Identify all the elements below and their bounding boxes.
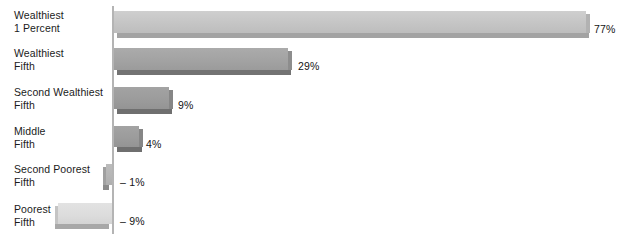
category-label-line1: Wealthiest [14,9,64,21]
bar-face [114,126,139,147]
category-label-line1: Poorest [14,203,51,215]
bar-chart: Wealthiest 1 Percent 77% Wealthiest Fift… [0,0,626,242]
category-label-line1: Wealthiest [14,47,64,59]
bar-end-bevel [586,14,590,33]
bar-end-bevel [169,90,173,109]
value-label-poorest-fifth: – 9% [120,215,145,227]
category-label-line2: Fifth [14,176,110,189]
category-label-line2: Fifth [14,138,110,151]
bar-middle-fifth [114,126,139,147]
bar-end-bevel [288,51,292,70]
category-label-second-poorest-fifth: Second Poorest Fifth [14,163,110,189]
bar-face [114,11,586,33]
bar-extrude-shadow [117,109,172,114]
bar-end-bevel [103,167,106,185]
bar-face [58,203,112,224]
bar-face [114,48,288,70]
bar-wealthiest-fifth [114,48,288,70]
bar-wealthiest-1-percent [114,11,586,33]
chart-row-second-wealthiest-fifth: Second Wealthiest Fifth 9% [0,85,626,123]
category-label-line1: Second Poorest [14,163,90,175]
value-label-wealthiest-1-percent: 77% [594,23,616,35]
bar-face [106,164,112,185]
bar-extrude-shadow [55,224,109,229]
category-label-wealthiest-1-percent: Wealthiest 1 Percent [14,9,110,35]
category-label-line1: Second Wealthiest [14,86,103,98]
value-label-second-wealthiest-fifth: 9% [178,99,194,111]
bar-second-poorest-fifth [106,164,112,185]
chart-row-wealthiest-fifth: Wealthiest Fifth 29% [0,46,626,84]
category-label-middle-fifth: Middle Fifth [14,125,110,151]
category-label-line2: Fifth [14,60,110,73]
category-label-line1: Middle [14,125,46,137]
bar-poorest-fifth [58,203,112,224]
chart-row-middle-fifth: Middle Fifth 4% [0,123,626,161]
bar-extrude-shadow [103,185,109,190]
bar-face [114,87,169,109]
chart-row-wealthiest-1-percent: Wealthiest 1 Percent 77% [0,8,626,46]
value-label-second-poorest-fifth: – 1% [120,176,145,188]
value-label-middle-fifth: 4% [146,138,162,150]
chart-row-second-poorest-fifth: Second Poorest Fifth – 1% [0,161,626,199]
chart-row-poorest-fifth: Poorest Fifth – 9% [0,199,626,237]
bar-extrude-shadow [117,33,589,38]
category-label-second-wealthiest-fifth: Second Wealthiest Fifth [14,86,110,112]
bar-extrude-shadow [117,147,142,152]
value-label-wealthiest-fifth: 29% [298,60,320,72]
bar-end-bevel [139,129,143,147]
bar-end-bevel [55,206,58,224]
bar-second-wealthiest-fifth [114,87,169,109]
bar-extrude-shadow [117,70,291,75]
category-label-line2: 1 Percent [14,22,110,35]
category-label-wealthiest-fifth: Wealthiest Fifth [14,47,110,73]
category-label-line2: Fifth [14,99,110,112]
